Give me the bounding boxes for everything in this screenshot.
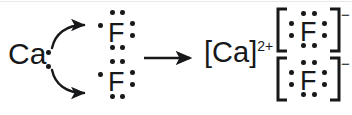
fluoride-right-dot xyxy=(322,70,327,75)
bracket-left-shape xyxy=(278,58,287,100)
fluoride-bottom-dot xyxy=(301,92,306,97)
lewis-structure-diagram: Ca F F [Ca]2+ xyxy=(0,0,352,115)
fluoride-left-dot xyxy=(289,82,294,87)
fluoride-ion-bottom-brackets xyxy=(0,0,352,115)
fluoride-left-dot xyxy=(289,70,294,75)
fluoride-top-dot xyxy=(312,60,317,65)
fluoride-top-dot xyxy=(301,60,306,65)
fluoride-ion-charge: − xyxy=(341,55,350,72)
fluoride-bottom-dot xyxy=(312,92,317,97)
bracket-right-shape xyxy=(330,58,339,100)
fluoride-right-dot xyxy=(322,82,327,87)
